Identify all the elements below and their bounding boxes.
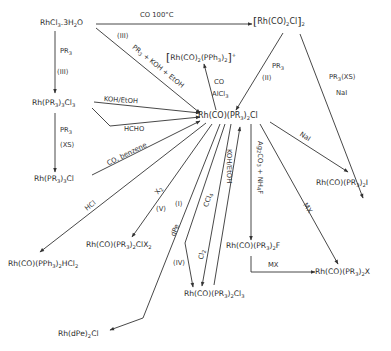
cond-co: CO (214, 79, 224, 86)
compound-rh-pr3-3-cl: Rh(PR3)3Cl (34, 175, 74, 183)
cond-roman-iv: (IV) (173, 260, 185, 267)
cond-roman-v: (V) (156, 206, 166, 213)
arrow-mx-bottom (251, 256, 315, 272)
cond-pr3-xs-right: PR3(XS) (329, 74, 355, 81)
cond-koh-etoh-up: KOH/EtOH (225, 149, 232, 183)
compound-cation: [Rh(CO)2(PPh3)2]+ (166, 52, 236, 63)
compound-rhcl3-hydrate: RhCl3.3H2O (40, 19, 83, 27)
arrow-dimer-to-iodide (300, 34, 363, 198)
reaction-scheme: RhCl3.3H2O [Rh(CO)2Cl]2 [Rh(CO)2(PPh3)2]… (0, 0, 391, 351)
compound-dpe: Rh(dPe)2Cl (58, 330, 99, 338)
compound-clx2: Rh(CO)(PR3)2ClX2 (86, 241, 152, 249)
cond-pr3-left: PR3 (60, 48, 72, 55)
cond-roman-i: (I) (175, 201, 182, 208)
arrow-hcho (92, 108, 200, 126)
cond-co-100c: CO 100°C (140, 12, 173, 19)
compound-hcl2: Rh(CO)(PPh3)2HCl2 (8, 260, 78, 268)
compound-rh-co2-cl-dimer: [Rh(CO)2Cl]2 (253, 16, 305, 27)
compound-iodide: Rh(CO)(PR3)2I (316, 179, 368, 187)
arrow-dimer-to-center (236, 33, 283, 110)
cond-nai-right: NaI (336, 90, 347, 97)
compound-center-vaska: Rh(CO)(PR3)2Cl (198, 112, 258, 120)
cond-xs-left: (XS) (60, 142, 74, 149)
compound-halide: Rh(CO)(PR3)2X (315, 268, 370, 276)
cond-roman-iii-top: (III) (117, 33, 128, 40)
compound-cl3: Rh(CO)(PR3)2Cl3 (184, 290, 244, 298)
compound-rh-pr3-3-cl3: Rh(PR3)3Cl3 (32, 99, 75, 107)
cond-ag2co3-nh4f: Ag2CO3 + NH4F (256, 141, 263, 194)
arrow-center-to-cation (204, 64, 216, 110)
cond-pr3-ii: PR3 (272, 63, 284, 70)
cond-roman-ii: (II) (262, 75, 271, 82)
cond-alcl3: AlCl3 (212, 91, 229, 98)
cond-roman-iii-left: (III) (57, 69, 68, 76)
cond-hcho: HCHO (124, 126, 144, 133)
cond-cl2: Cl2 (198, 249, 206, 260)
cond-pr3-xs-left: PR3 (60, 127, 72, 134)
cond-mx-bottom: MX (268, 262, 279, 269)
arrow-koh-etoh-left (94, 102, 200, 113)
compound-fluoride: Rh(CO)(PR3)2F (226, 242, 280, 250)
